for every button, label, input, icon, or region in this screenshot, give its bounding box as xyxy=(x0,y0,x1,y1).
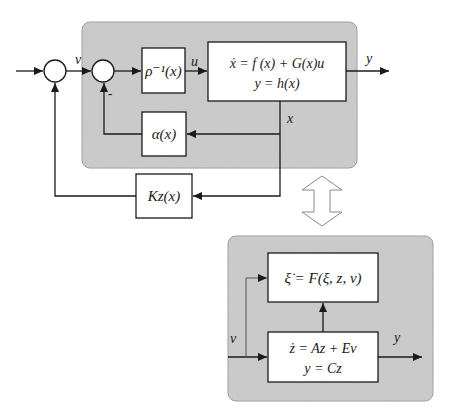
rho-inverse-label: ρ⁻¹(x) xyxy=(144,63,181,80)
z-output-equation: y = Cz xyxy=(302,361,342,376)
signal-u-label: u xyxy=(191,54,198,69)
xi-dynamics-block: ξ̇ = F(ξ, z, v) xyxy=(268,253,378,302)
signal-y-label: y xyxy=(364,51,373,66)
minus-sign: - xyxy=(108,86,112,101)
block-diagram: ρ⁻¹(x) ẋ = f (x) + G(x)u y = h(x) α(x) K… xyxy=(0,0,450,418)
kz-label: Kz(x) xyxy=(147,188,181,205)
summing-junction-outer xyxy=(44,60,66,82)
summing-junction-inner xyxy=(92,60,114,82)
z-state-equation: ż = Az + Ev xyxy=(289,341,358,356)
plant-output-equation: y = h(x) xyxy=(252,76,300,92)
plant-block: ẋ = f (x) + G(x)u y = h(x) xyxy=(208,42,346,101)
z-dynamics-block: ż = Az + Ev y = Cz xyxy=(268,332,378,382)
equivalence-double-arrow-icon xyxy=(302,176,342,226)
alpha-block: α(x) xyxy=(142,112,186,156)
alpha-label: α(x) xyxy=(152,126,177,143)
kz-block: Kz(x) xyxy=(136,174,192,218)
signal-v-label: v xyxy=(75,52,82,67)
rho-inverse-block: ρ⁻¹(x) xyxy=(142,48,185,93)
bottom-signal-y-label: y xyxy=(392,330,401,345)
signal-x-label: x xyxy=(286,111,294,126)
xi-dynamics-equation: ξ̇ = F(ξ, z, v) xyxy=(284,270,361,287)
bottom-signal-v-label: v xyxy=(230,331,237,346)
plant-state-equation: ẋ = f (x) + G(x)u xyxy=(229,56,325,72)
